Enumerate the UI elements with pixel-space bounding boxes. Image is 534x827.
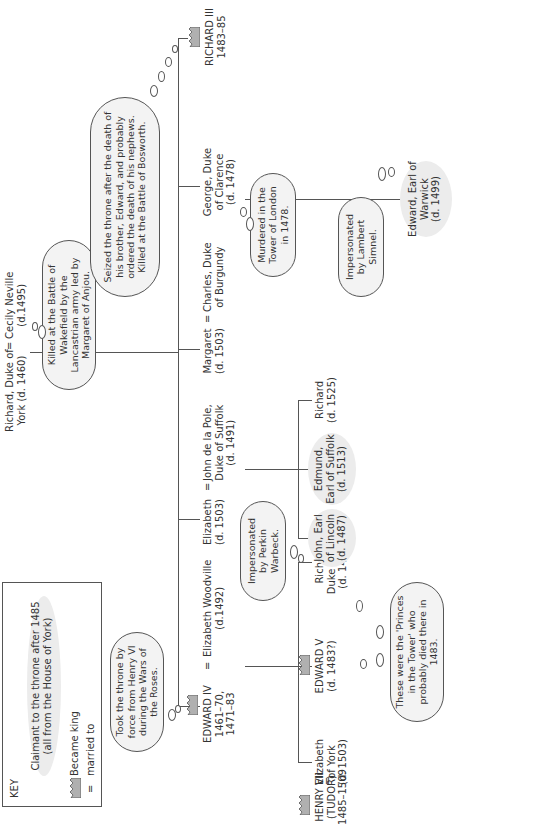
key-claimant-line2: (all from the House of York) [42,596,54,776]
thought-bubble [290,545,298,559]
thought-bubble [32,322,38,331]
cloud-george-murdered: Murdered in the Tower of London in 1478. [250,173,296,277]
cloud-perkin-warbeck: Impersonated by Perkin Warbeck. [240,501,286,601]
richard-duke-of-york: Richard, Duke of York (d. 1460) [4,349,27,432]
cloud-richard-iii: Seized the throne after the death of his… [90,97,160,297]
edward-v: EDWARD V (d. 1483?) [314,635,337,697]
john-earl-of-lincoln: John, Earl of Lincoln (d. 1487) [308,509,356,567]
elizabeth-woodville: Elizabeth Woodville (d.1492) [202,560,225,657]
thought-bubble [38,325,46,339]
key-claimant-swatch: Claimant to the throne after 1485 (all f… [27,596,61,776]
married-sign: = [202,483,214,491]
tree-line [178,519,200,520]
tree-line [298,762,312,763]
edmund-earl-of-suffolk: Edmund, Earl of Suffolk (d. 1513) [308,433,356,505]
thought-bubble [150,85,158,97]
edward-earl-of-warwick: Edward, Earl of Warwick (d. 1499) [400,161,452,237]
richard-iii: RICHARD III 1483–85 [204,2,227,72]
thought-bubble [376,653,384,667]
cloud-lambert-simnel: Impersonated by Lambert Simnel. [338,197,384,297]
key-title: KEY [9,779,21,798]
thought-bubble [376,625,384,639]
cloud-wakefield: Killed at the Battle of Wakefield by the… [42,240,96,390]
crown-icon [188,27,200,47]
married-sign: = [202,662,214,670]
elizabeth-of-york-sister: Elizabeth (d. 1503) [202,499,225,545]
thought-bubble [175,705,181,713]
crown-icon [69,778,81,798]
cloud-princes-in-tower: These were the 'Princes in the Tower' wh… [390,582,444,722]
tree-line [178,186,200,187]
edward-iv: EDWARD IV 1461–70, 1471–83 [202,679,237,749]
crown-icon [186,695,198,715]
thought-bubble [356,600,363,612]
tree-line [178,39,179,707]
thought-bubble [240,207,247,217]
tree-line [245,666,298,667]
tree-line [178,349,200,350]
key-claimant-line1: Claimant to the throne after 1485 [30,596,42,776]
thought-bubble [388,167,395,177]
thought-bubble [172,45,178,53]
key-married-symbol: = [85,785,97,793]
richard-de-la-pole: Richard (d. 1525) [314,375,337,425]
key-became-king: Became king [69,711,81,776]
george-duke-of-clarence: George, Duke of Clarence (d. 1478) [202,147,237,217]
cecily-neville: Cecily Neville (d.1495) [4,272,27,339]
crown-icon [298,795,310,815]
thought-bubble [298,554,304,563]
margaret: Margaret (d. 1503) [202,328,225,374]
elizabeth-of-york: Elizabeth of York (d. 1503) [314,735,349,789]
tree-line [178,38,188,39]
key-box: KEY Claimant to the throne after 1485 (a… [2,582,102,807]
thought-bubble [378,167,386,181]
john-de-la-pole: John de la Pole, Duke of Suffolk (d. 149… [202,404,237,481]
tree-line [298,401,299,539]
married-sign: = [4,342,16,350]
tree-line [245,469,298,470]
tree-line [298,400,312,401]
cloud-edward-iv: Took the throne by force from Henry VI d… [110,632,164,752]
married-sign: = [202,315,214,323]
thought-bubble [165,57,172,67]
thought-bubble [246,217,254,231]
charles-duke-of-burgundy: Charles, Duke of Burgundy [202,242,225,312]
thought-bubble [360,659,367,669]
key-married-to: married to [85,724,97,776]
crown-icon [298,655,310,675]
thought-bubble [158,71,165,82]
